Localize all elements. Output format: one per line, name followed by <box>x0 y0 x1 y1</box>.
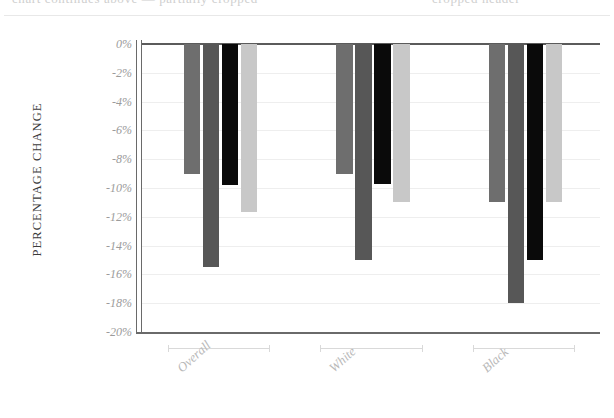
x-tick-cap <box>422 345 423 352</box>
y-tick-label: -16% <box>106 267 132 282</box>
x-tick-cap <box>269 345 270 352</box>
bar-series-layer <box>142 44 600 332</box>
y-tick-label: -18% <box>106 296 132 311</box>
x-tick-line <box>168 348 270 349</box>
y-tick-label: -10% <box>106 181 132 196</box>
y-axis-tick-labels: 0%-2%-4%-6%-8%-10%-12%-14%-16%-18%-20% <box>60 30 138 350</box>
y-tick-label: -8% <box>112 152 132 167</box>
x-tick-line <box>320 348 422 349</box>
bar[interactable] <box>336 44 353 174</box>
bar[interactable] <box>184 44 201 174</box>
bar-chart: PERCENTAGE CHANGE 0%-2%-4%-6%-8%-10%-12%… <box>0 0 614 418</box>
y-axis-title: PERCENTAGE CHANGE <box>30 65 45 295</box>
bar[interactable] <box>222 44 239 185</box>
bar[interactable] <box>241 44 258 212</box>
y-axis-line-outer <box>136 40 137 334</box>
x-axis: OverallWhiteBlack <box>142 334 600 418</box>
x-tick-line <box>473 348 575 349</box>
y-tick-label: 0% <box>116 37 132 52</box>
x-tick-cap <box>473 345 474 352</box>
y-tick-label: -2% <box>112 65 132 80</box>
bar[interactable] <box>489 44 506 202</box>
bar[interactable] <box>393 44 410 202</box>
x-category-label: Overall <box>174 337 214 375</box>
bar[interactable] <box>546 44 563 202</box>
plot-area <box>142 44 600 332</box>
bar[interactable] <box>203 44 220 267</box>
x-tick-cap <box>320 345 321 352</box>
y-tick-label: -14% <box>106 238 132 253</box>
bar[interactable] <box>355 44 372 260</box>
y-tick-label: -6% <box>112 123 132 138</box>
y-tick-label: -12% <box>106 209 132 224</box>
x-tick-cap <box>574 345 575 352</box>
y-tick-label: -4% <box>112 94 132 109</box>
bar[interactable] <box>374 44 391 184</box>
bar[interactable] <box>508 44 525 303</box>
bar[interactable] <box>527 44 544 260</box>
y-tick-label: -20% <box>106 325 132 340</box>
x-tick-cap <box>168 345 169 352</box>
